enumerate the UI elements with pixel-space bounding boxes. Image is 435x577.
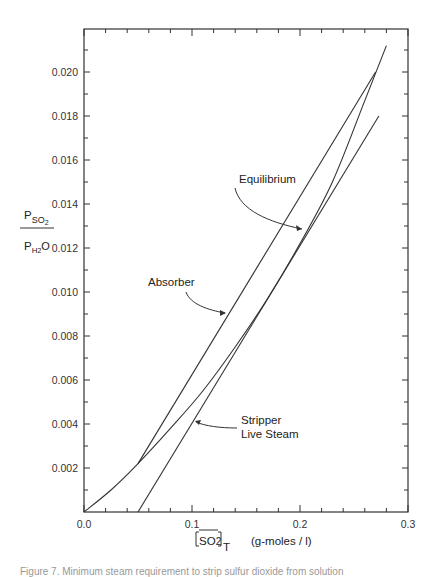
x-tick-label: 0.1 xyxy=(185,518,200,530)
y-tick-label: 0.008 xyxy=(52,330,78,342)
y-tick-label: 0.012 xyxy=(52,242,78,254)
y-tick-label: 0.010 xyxy=(52,286,78,298)
figure-caption: Figure 7. Minimum steam requirement to s… xyxy=(20,566,343,577)
y-tick-label: 0.016 xyxy=(52,154,78,166)
y-tick-label: 0.018 xyxy=(52,110,78,122)
svg-text:PSO2: PSO2 xyxy=(24,209,49,226)
x-tick-label: 0.2 xyxy=(293,518,308,530)
label-absorber: Absorber xyxy=(148,276,195,288)
arrowhead-equilibrium xyxy=(296,225,302,231)
label-stripper: Stripper xyxy=(241,414,281,426)
x-tick-label: 0.0 xyxy=(77,518,92,530)
y-axis-label: PSO2 PH2O xyxy=(20,209,54,255)
arrow-stripper xyxy=(196,422,237,428)
label-equilibrium: Equilibrium xyxy=(239,173,296,185)
arrow-equilibrium xyxy=(235,188,302,229)
svg-text:SO2: SO2 xyxy=(199,535,222,547)
y-tick-label: 0.020 xyxy=(52,66,78,78)
data-curves xyxy=(84,46,386,512)
y-tick-label: 0.004 xyxy=(52,418,78,430)
y-tick-label: 0.006 xyxy=(52,374,78,386)
arrowhead-absorber xyxy=(220,310,226,316)
y-tick-label: 0.002 xyxy=(52,462,78,474)
svg-text:PH2O: PH2O xyxy=(24,240,50,255)
svg-text:T: T xyxy=(223,541,230,553)
curve-absorber xyxy=(138,72,376,464)
chart-svg: 0.00.10.20.30.0020.0040.0060.0080.0100.0… xyxy=(0,0,435,577)
label-live-steam: Live Steam xyxy=(241,428,299,440)
arrow-absorber xyxy=(186,292,225,313)
axis-tick-labels: 0.00.10.20.30.0020.0040.0060.0080.0100.0… xyxy=(52,66,416,530)
svg-text:(g-moles / l): (g-moles / l) xyxy=(251,535,312,547)
curve-equilibrium xyxy=(84,46,386,512)
y-tick-label: 0.014 xyxy=(52,198,78,210)
x-axis-label: SO2 T (g-moles / l) xyxy=(196,530,312,553)
x-tick-label: 0.3 xyxy=(401,518,416,530)
